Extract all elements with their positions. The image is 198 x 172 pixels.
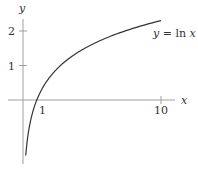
curve-label-fn: ln	[175, 27, 189, 40]
ln-curve	[26, 21, 161, 156]
x-tick-label-1: 1	[39, 104, 46, 117]
y-tick-label-2: 2	[8, 25, 15, 38]
curve-label-eq: =	[159, 27, 175, 40]
x-axis-label: x	[181, 94, 188, 107]
chart: y x 2 1 1 10 y = ln x	[0, 0, 198, 172]
y-axis-label: y	[18, 2, 26, 15]
x-tick-label-10: 10	[154, 104, 168, 117]
y-tick-label-1: 1	[8, 60, 15, 73]
curve-label-var: x	[190, 27, 197, 40]
curve-label: y = ln x	[152, 27, 197, 40]
